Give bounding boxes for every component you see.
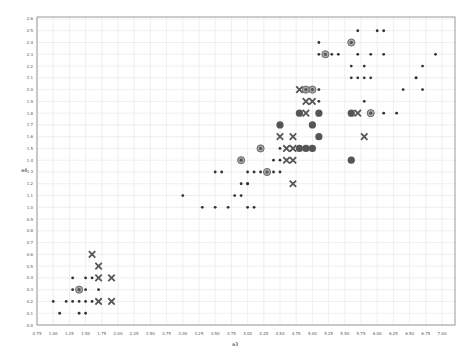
x-tick-label: 6.75	[421, 331, 430, 336]
point-dot	[78, 312, 81, 315]
y-tick-label: 2.0	[27, 87, 34, 92]
y-tick-label: 2.5	[27, 28, 34, 33]
point-dot	[317, 88, 320, 91]
x-tick-label: 2.25	[130, 331, 139, 336]
point-dot	[317, 41, 320, 44]
point-dot	[84, 300, 87, 303]
point-ring-center	[304, 88, 307, 91]
point-dot	[363, 76, 366, 79]
point-dot	[369, 53, 372, 56]
point-dot	[279, 147, 282, 150]
point-dot	[350, 65, 353, 68]
point-dot	[272, 171, 275, 174]
point-ring-center	[311, 88, 314, 91]
point-dot	[214, 206, 217, 209]
point-disc	[348, 157, 355, 164]
x-tick-label: 2.75	[162, 331, 171, 336]
point-dot	[201, 206, 204, 209]
x-tick-label: 1.00	[49, 331, 58, 336]
point-disc	[309, 145, 316, 152]
point-ring-center	[324, 53, 327, 56]
x-tick-label: 5.50	[340, 331, 349, 336]
y-tick-label: 2.2	[27, 64, 34, 69]
point-dot	[317, 100, 320, 103]
point-dot	[363, 65, 366, 68]
x-axis-label: a3	[232, 341, 238, 347]
point-dot	[421, 88, 424, 91]
y-tick-label: 0.8	[27, 228, 34, 233]
point-dot	[421, 65, 424, 68]
x-tick-label: 2.50	[146, 331, 155, 336]
y-axis-ticks: 0.00.10.20.30.40.50.60.70.80.91.01.11.21…	[27, 16, 34, 327]
point-dot	[58, 312, 61, 315]
y-tick-label: 1.0	[27, 205, 34, 210]
point-dot	[376, 29, 379, 32]
point-disc	[315, 110, 322, 117]
point-disc	[309, 121, 316, 128]
x-tick-label: 1.25	[65, 331, 74, 336]
point-dot	[395, 112, 398, 115]
point-dot	[91, 277, 94, 280]
point-dot	[71, 300, 74, 303]
point-dot	[246, 171, 249, 174]
point-dot	[369, 76, 372, 79]
point-dot	[279, 159, 282, 162]
point-dot	[97, 288, 100, 291]
point-disc	[302, 145, 309, 152]
point-dot	[402, 88, 405, 91]
x-tick-label: 3.75	[227, 331, 236, 336]
y-tick-label: 0.9	[27, 217, 34, 222]
point-disc	[296, 110, 303, 117]
x-tick-label: 1.75	[97, 331, 106, 336]
y-tick-label: 0.4	[27, 275, 34, 280]
point-dot	[434, 53, 437, 56]
point-dot	[233, 194, 236, 197]
x-tick-label: 0.75	[33, 331, 42, 336]
y-tick-label: 2.6	[27, 16, 34, 21]
x-tick-label: 2.00	[114, 331, 123, 336]
y-tick-label: 0.1	[27, 311, 34, 316]
point-ring-center	[265, 170, 268, 173]
point-dot	[52, 300, 55, 303]
y-tick-label: 0.2	[27, 299, 34, 304]
point-dot	[415, 76, 418, 79]
point-disc	[315, 133, 322, 140]
point-ring-center	[78, 288, 81, 291]
point-ring-center	[259, 147, 262, 150]
y-tick-label: 2.1	[27, 75, 34, 80]
point-ring-center	[369, 112, 372, 115]
y-tick-label: 1.9	[27, 99, 34, 104]
point-dot	[84, 277, 87, 280]
x-tick-label: 7.00	[438, 331, 447, 336]
point-dot	[240, 194, 243, 197]
point-disc	[296, 145, 303, 152]
x-tick-label: 3.00	[178, 331, 187, 336]
y-tick-label: 0.7	[27, 240, 34, 245]
y-tick-label: 1.3	[27, 169, 34, 174]
y-tick-label: 1.4	[27, 158, 34, 163]
y-tick-label: 1.7	[27, 122, 34, 127]
y-tick-label: 1.1	[27, 193, 34, 198]
point-dot	[337, 53, 340, 56]
x-tick-label: 1.50	[81, 331, 90, 336]
x-tick-label: 3.25	[195, 331, 204, 336]
point-dot	[382, 53, 385, 56]
point-dot	[71, 288, 74, 291]
y-axis-label: a4	[21, 167, 27, 173]
x-tick-label: 6.00	[373, 331, 382, 336]
point-dot	[246, 182, 249, 185]
point-dot	[259, 171, 262, 174]
point-ring-center	[240, 159, 243, 162]
scatter-plot: 0.00.10.20.30.40.50.60.70.80.91.01.11.21…	[0, 0, 475, 355]
y-tick-label: 2.4	[27, 40, 34, 45]
point-dot	[78, 300, 81, 303]
x-axis-ticks: 0.751.001.251.501.752.002.252.502.753.00…	[33, 331, 447, 336]
point-dot	[382, 29, 385, 32]
y-tick-label: 0.0	[27, 323, 34, 328]
point-dot	[356, 53, 359, 56]
x-tick-label: 4.75	[292, 331, 301, 336]
point-dot	[71, 277, 74, 280]
x-tick-label: 5.00	[308, 331, 317, 336]
x-tick-label: 5.75	[357, 331, 366, 336]
point-dot	[382, 112, 385, 115]
